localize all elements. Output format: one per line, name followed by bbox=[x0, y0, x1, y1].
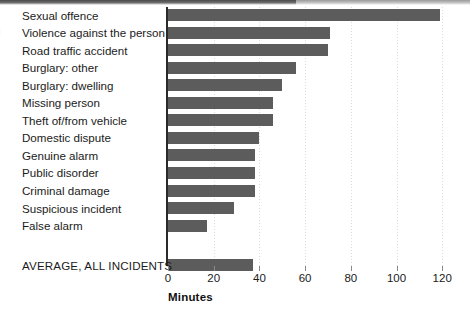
category-label: Missing person bbox=[22, 97, 100, 109]
tick-mark-20 bbox=[214, 266, 215, 271]
category-label: Public disorder bbox=[22, 167, 99, 179]
category-label: Burglary: other bbox=[22, 62, 98, 74]
bar bbox=[168, 132, 259, 144]
bar bbox=[168, 27, 330, 39]
category-label: AVERAGE, ALL INCIDENTS bbox=[22, 260, 172, 272]
gridline-120 bbox=[442, 7, 443, 266]
tick-mark-100 bbox=[397, 266, 398, 271]
plot-area: Sexual offenceViolence against the perso… bbox=[0, 0, 470, 312]
x-tick-label-40: 40 bbox=[253, 272, 266, 284]
category-label: Domestic dispute bbox=[22, 132, 111, 144]
bar bbox=[168, 9, 440, 21]
x-tick-label-60: 60 bbox=[299, 272, 312, 284]
bar bbox=[168, 62, 296, 74]
bar bbox=[168, 167, 255, 179]
gridline-80 bbox=[351, 7, 352, 266]
gridline-100 bbox=[397, 7, 398, 266]
tick-mark-40 bbox=[259, 266, 260, 271]
tick-mark-60 bbox=[305, 266, 306, 271]
bar-chart: l Sexual offenceViolence against the per… bbox=[0, 0, 470, 312]
category-label: Suspicious incident bbox=[22, 203, 121, 215]
category-label: Burglary: dwelling bbox=[22, 80, 114, 92]
tick-mark-0 bbox=[168, 266, 169, 271]
bar bbox=[168, 259, 253, 271]
category-label: Genuine alarm bbox=[22, 150, 98, 162]
bar bbox=[168, 97, 273, 109]
bar bbox=[168, 185, 255, 197]
bar bbox=[168, 114, 273, 126]
category-label: Sexual offence bbox=[22, 10, 99, 22]
bar bbox=[168, 79, 282, 91]
x-tick-label-120: 120 bbox=[433, 272, 452, 284]
bar bbox=[168, 220, 207, 232]
category-label: Criminal damage bbox=[22, 185, 110, 197]
category-label: False alarm bbox=[22, 220, 83, 232]
bar bbox=[168, 202, 234, 214]
x-tick-label-80: 80 bbox=[344, 272, 357, 284]
bar bbox=[168, 44, 328, 56]
bar bbox=[168, 149, 255, 161]
category-label: Road traffic accident bbox=[22, 45, 127, 57]
x-tick-label-20: 20 bbox=[207, 272, 220, 284]
x-tick-label-100: 100 bbox=[387, 272, 406, 284]
x-axis-title: Minutes bbox=[168, 291, 213, 303]
tick-mark-80 bbox=[351, 266, 352, 271]
category-label: Violence against the person bbox=[22, 27, 165, 39]
tick-mark-120 bbox=[442, 266, 443, 271]
category-label: Theft of/from vehicle bbox=[22, 115, 127, 127]
x-tick-label-0: 0 bbox=[165, 272, 171, 284]
